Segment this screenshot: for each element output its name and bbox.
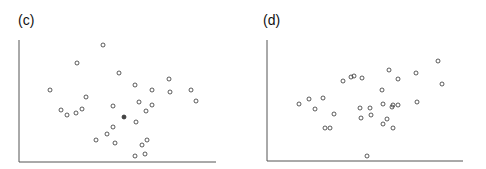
data-point [59, 108, 63, 112]
chart-c [19, 40, 216, 162]
data-point [323, 126, 327, 130]
data-point [111, 125, 115, 129]
scatter-plots [0, 0, 486, 169]
data-point [167, 77, 171, 81]
data-point [48, 88, 52, 92]
data-point [133, 154, 137, 158]
data-point [145, 138, 149, 142]
data-point [297, 102, 301, 106]
data-point [359, 116, 363, 120]
data-point [358, 106, 362, 110]
data-point [122, 115, 126, 119]
data-point [440, 82, 444, 86]
data-point [385, 117, 389, 121]
data-point [381, 102, 385, 106]
data-point [74, 111, 78, 115]
data-point [332, 112, 336, 116]
chart-d [267, 40, 463, 161]
data-point [313, 107, 317, 111]
data-point [321, 96, 325, 100]
data-point [328, 126, 332, 130]
data-point [113, 141, 117, 145]
data-point [341, 79, 345, 83]
data-point [84, 95, 88, 99]
data-point [101, 43, 105, 47]
data-point [65, 113, 69, 117]
data-point [194, 99, 198, 103]
data-point [133, 83, 137, 87]
data-point [137, 100, 141, 104]
data-point [365, 154, 369, 158]
data-point [189, 88, 193, 92]
data-point [75, 61, 79, 65]
data-point [150, 103, 154, 107]
data-point [414, 71, 418, 75]
data-point [117, 71, 121, 75]
data-point [307, 97, 311, 101]
data-point [168, 90, 172, 94]
data-point [150, 88, 154, 92]
data-point [94, 138, 98, 142]
data-point [143, 152, 147, 156]
data-point [360, 76, 364, 80]
data-point [396, 103, 400, 107]
data-point [415, 100, 419, 104]
data-point [140, 143, 144, 147]
data-point [134, 120, 138, 124]
data-point [368, 106, 372, 110]
data-point [80, 107, 84, 111]
data-point [436, 59, 440, 63]
data-point [105, 132, 109, 136]
data-point [380, 88, 384, 92]
data-point [396, 77, 400, 81]
data-point [387, 68, 391, 72]
data-point [144, 109, 148, 113]
data-point [111, 104, 115, 108]
data-point [391, 126, 395, 130]
data-point [369, 113, 373, 117]
data-point [381, 122, 385, 126]
